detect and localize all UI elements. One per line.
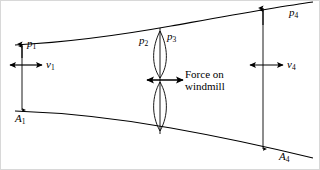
label-A4: A4 [279,151,289,162]
label-v4: v4 [287,59,296,70]
lower-streamline [15,111,313,158]
force-caption-line-2: windmill [185,81,225,93]
label-p4: p4 [289,7,298,18]
label-v1: v1 [46,59,55,70]
label-p2: p2 [139,35,148,46]
force-on-windmill-caption: Force on windmill [185,69,225,92]
label-p3: p3 [167,31,176,42]
upper-streamline [15,2,313,45]
label-A1: A1 [15,113,25,124]
diagram-canvas [1,1,320,170]
windmill-stream-tube-diagram: p1 v1 A1 p2 p3 p4 v4 A4 Force on windmil… [0,0,320,170]
label-p1: p1 [27,38,36,49]
force-caption-line-1: Force on [185,69,225,81]
